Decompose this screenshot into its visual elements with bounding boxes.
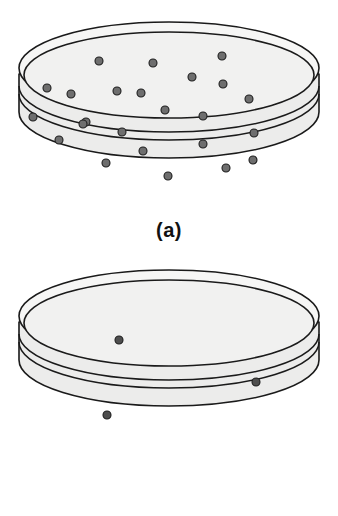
petri-dish-a-illustration (0, 0, 338, 218)
colony-marker (164, 172, 172, 180)
colony-marker (67, 90, 75, 98)
colony-marker (218, 52, 226, 60)
colony-marker (29, 113, 37, 121)
colony-marker (245, 95, 253, 103)
petri-dish-b-stage (0, 260, 338, 470)
panel-a-caption: (a) (0, 219, 338, 242)
colony-marker (219, 80, 227, 88)
colony-marker (102, 159, 110, 167)
petri-dish-a-stage (0, 0, 338, 218)
colony-marker (79, 120, 87, 128)
colony-marker (137, 89, 145, 97)
colony-marker (188, 73, 196, 81)
colony-marker (118, 128, 126, 136)
colony-marker (149, 59, 157, 67)
colony-marker (199, 112, 207, 120)
colony-marker (199, 140, 207, 148)
colony-marker (252, 378, 260, 386)
colony-marker (250, 129, 258, 137)
figure-panel-a: (a) (0, 0, 338, 260)
colony-marker (95, 57, 103, 65)
colony-marker (103, 411, 111, 419)
colony-marker (43, 84, 51, 92)
colony-marker (55, 136, 63, 144)
petri-dish-b-illustration (0, 260, 338, 470)
colony-marker (113, 87, 121, 95)
dish-b-agar-surface (24, 280, 314, 366)
colony-marker (139, 147, 147, 155)
figure-panel-b: (b) (0, 260, 338, 516)
dish-a-agar-surface (24, 32, 314, 118)
colony-marker (161, 106, 169, 114)
colony-marker (222, 164, 230, 172)
colony-marker (249, 156, 257, 164)
colony-marker (115, 336, 123, 344)
